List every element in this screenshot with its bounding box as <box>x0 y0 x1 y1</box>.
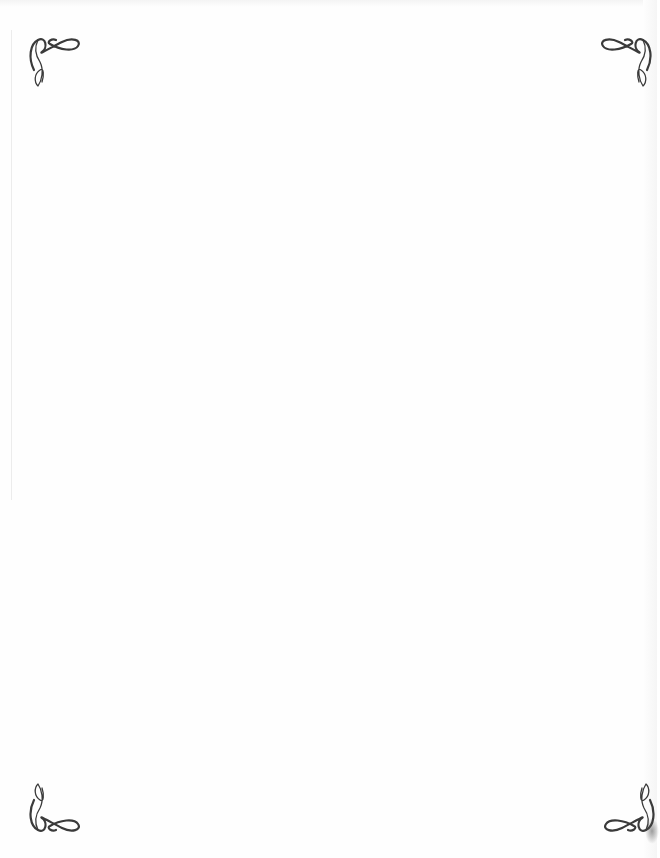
right-edge-shadow <box>643 0 657 858</box>
edge-smudge <box>645 818 659 844</box>
left-margin-line <box>11 30 12 500</box>
top-edge-shadow <box>0 0 657 7</box>
flourish-corner-icon <box>24 776 88 840</box>
flourish-corner-icon <box>24 30 88 94</box>
flourish-corner-icon <box>593 30 657 94</box>
